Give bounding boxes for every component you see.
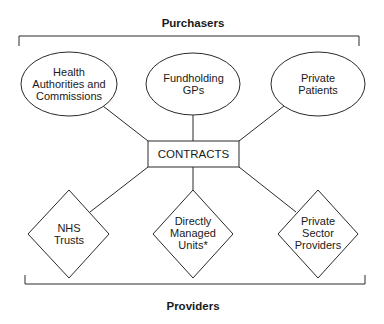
label-line: Health — [21, 66, 117, 78]
providers-heading: Providers — [143, 300, 243, 312]
label-line: Sector — [278, 227, 358, 239]
label-line: Private — [278, 215, 358, 227]
purchasers-bracket — [19, 36, 359, 46]
provider-private-sector: Private Sector Providers — [278, 215, 358, 251]
label-line: Commissions — [21, 90, 117, 102]
provider-directly-managed: Directly Managed Units* — [153, 215, 233, 251]
label-line: Patients — [271, 84, 365, 96]
contracts-label: CONTRACTS — [148, 148, 239, 160]
label-line: NHS — [29, 222, 109, 234]
purchaser-private-patients: Private Patients — [271, 72, 365, 96]
purchaser-fundholding-gps: Fundholding GPs — [146, 72, 241, 96]
provider-nhs-trusts: NHS Trusts — [29, 222, 109, 246]
label-line: Providers — [278, 239, 358, 251]
connector-private-patients — [239, 106, 284, 141]
purchasers-heading: Purchasers — [143, 17, 243, 29]
purchaser-health-authorities: Health Authorities and Commissions — [21, 66, 117, 102]
label-line: Trusts — [29, 234, 109, 246]
connector-health-authorities — [103, 106, 148, 141]
label-line: Private — [271, 72, 365, 84]
label-line: Units* — [153, 239, 233, 251]
label-line: Managed — [153, 227, 233, 239]
label-line: Fundholding — [146, 72, 241, 84]
connector-nhs-trusts — [90, 167, 148, 212]
connector-private-sector — [239, 167, 296, 212]
diagram-canvas — [0, 0, 384, 324]
label-line: Authorities and — [21, 78, 117, 90]
label-line: Directly — [153, 215, 233, 227]
label-line: GPs — [146, 84, 241, 96]
